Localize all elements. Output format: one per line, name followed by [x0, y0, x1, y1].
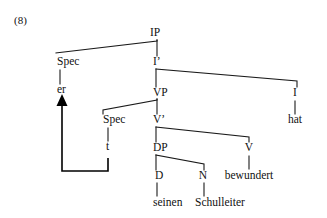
tree-node-bewundert: bewundert [225, 169, 274, 181]
tree-node-schulleiter: Schulleiter [195, 196, 245, 208]
tree-node-seinen: seinen [153, 196, 182, 208]
tree-node-hat: hat [288, 113, 302, 125]
tree-node-ibar: I’ [153, 55, 161, 67]
tree-branch [103, 99, 157, 114]
tree-node-er: er [57, 83, 66, 95]
tree-branch [156, 69, 297, 87]
tree-node-v: V [245, 141, 253, 153]
tree-node-spec-ip: Spec [57, 55, 79, 67]
movement-arrow-line [62, 100, 108, 171]
tree-node-vbar: V’ [153, 113, 165, 125]
movement-arrow-layer [57, 94, 109, 171]
tree-lines [0, 0, 327, 218]
tree-node-vp: VP [153, 86, 168, 98]
tree-node-ip: IP [150, 26, 160, 38]
tree-branch [156, 127, 249, 142]
movement-arrowhead-icon [57, 94, 68, 106]
tree-branch [56, 40, 157, 53]
tree-node-t: t [106, 140, 109, 152]
syntax-tree-figure: (8) IPSpecerI’VPIhatSpectV’DPVbewundertD… [0, 0, 327, 218]
tree-node-d: D [155, 169, 163, 181]
tree-node-n: N [199, 169, 207, 181]
tree-node-i: I [293, 86, 297, 98]
tree-branch [156, 155, 204, 170]
tree-node-spec-vp: Spec [103, 113, 125, 125]
tree-node-dp: DP [153, 141, 168, 153]
